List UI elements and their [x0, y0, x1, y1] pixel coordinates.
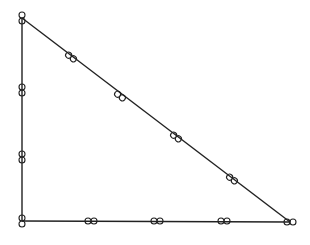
- hypotenuse-marker-icon: [64, 51, 77, 63]
- bottom-edge: [22, 221, 290, 222]
- hypotenuse-marker-icon: [113, 90, 126, 102]
- triangle-edges: [22, 18, 290, 222]
- bottom-edge-marker-icon: [218, 218, 230, 224]
- hypotenuse: [22, 18, 290, 222]
- hypotenuse-marker-icon: [169, 131, 182, 143]
- triangle-diagram: [0, 0, 310, 245]
- hypotenuse-marker-icon: [225, 173, 238, 185]
